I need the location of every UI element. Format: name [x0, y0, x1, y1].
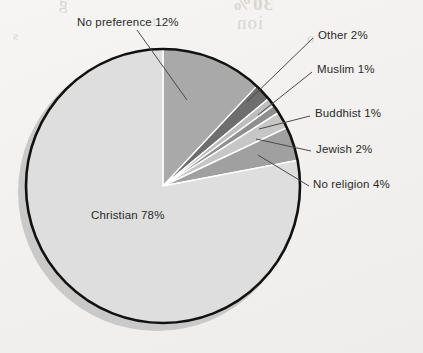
- slice-label-muslim: Muslim 1%: [317, 63, 375, 75]
- slice-label-no-religion: No religion 4%: [313, 178, 390, 190]
- slice-label-jewish: Jewish 2%: [316, 143, 372, 155]
- leader-line-muslim: [258, 72, 312, 115]
- slice-label-no-preference: No preference 12%: [77, 16, 179, 28]
- slice-label-christian: Christian 78%: [91, 209, 165, 221]
- pie-chart: [0, 0, 423, 353]
- slice-label-buddhist: Buddhist 1%: [315, 107, 381, 119]
- chart-page: g 30% ion 1 o s No preference 12% Other …: [0, 0, 423, 353]
- leader-line-other: [247, 38, 313, 102]
- slice-label-other: Other 2%: [318, 29, 368, 41]
